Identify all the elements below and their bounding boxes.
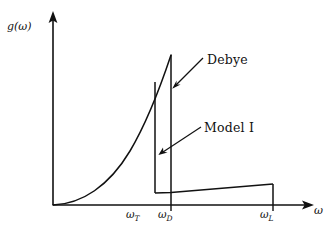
plot-canvas (0, 0, 330, 232)
tick-label-omega-T-base: ω (126, 208, 135, 220)
x-tick-marks (171, 205, 273, 211)
debye-curve (53, 55, 171, 205)
annotation-leader-debye (172, 58, 203, 89)
model-one-leader-arrowhead (158, 148, 167, 156)
annotation-label-model-one: Model I (204, 122, 254, 135)
axis-group (49, 11, 314, 209)
tick-label-omega-T-sub: T (135, 214, 140, 223)
figure-phonon-density-of-states: g(ω) ω ωT ωD ωL Debye Model I (0, 0, 330, 232)
annotation-leader-model-one (158, 127, 201, 155)
tick-label-omega-L-sub: L (269, 214, 274, 223)
annotation-label-debye: Debye (207, 54, 248, 67)
model-one-low-branch (155, 184, 273, 193)
tick-label-omega-T: ωT (126, 209, 140, 223)
x-axis-label: ω (314, 205, 323, 216)
tick-label-omega-D-base: ω (158, 208, 167, 220)
model-one-leader-line (163, 127, 201, 152)
tick-label-omega-L: ωL (260, 209, 274, 223)
tick-label-omega-L-base: ω (260, 208, 269, 220)
debye-leader-line (176, 58, 203, 85)
y-axis-label: g(ω) (7, 21, 32, 32)
tick-label-omega-D: ωD (158, 209, 173, 223)
tick-label-omega-D-sub: D (167, 214, 173, 223)
